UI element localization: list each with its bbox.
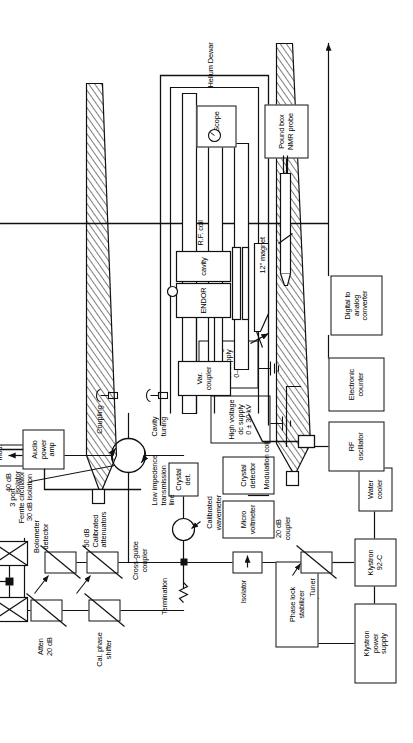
diagram-rotation-wrapper: Klystron power supply Klystron 92-C Wate…	[0, 0, 413, 743]
diagram-canvas: Klystron power supply Klystron 92-C Wate…	[0, 0, 413, 743]
nmr-probe-stick	[0, 0, 413, 743]
